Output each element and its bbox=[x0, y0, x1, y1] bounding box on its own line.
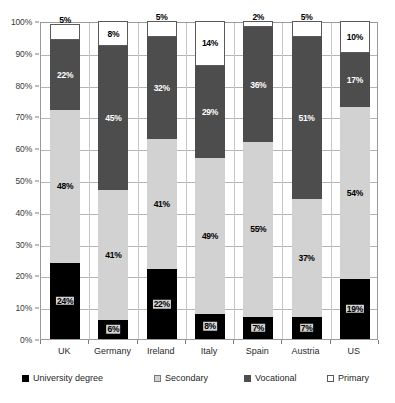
bar-segment-label: 2% bbox=[252, 13, 264, 22]
bar-segment-label: 19% bbox=[346, 305, 364, 314]
category-gridline bbox=[331, 23, 332, 339]
bar-segment-secondary[interactable]: 41% bbox=[98, 190, 128, 320]
stacked-bar-chart: 0%10%20%30%40%50%60%70%80%90%100% 24%48%… bbox=[0, 0, 395, 403]
x-tick-mark bbox=[233, 340, 234, 344]
category-gridline bbox=[186, 23, 187, 339]
bar-segment-secondary[interactable]: 41% bbox=[147, 139, 177, 269]
x-tick-label-spain: Spain bbox=[246, 346, 269, 356]
bar-column[interactable]: 24%48%22%5% bbox=[50, 21, 80, 339]
legend-label: Primary bbox=[338, 373, 369, 383]
bar-segment-primary[interactable]: 2% bbox=[243, 21, 273, 27]
bar-segment-primary[interactable]: 8% bbox=[98, 21, 128, 46]
y-tick-mark bbox=[35, 244, 39, 245]
x-tick-mark bbox=[330, 340, 331, 344]
legend-item[interactable]: University degree bbox=[22, 373, 103, 383]
university-swatch-icon bbox=[22, 375, 29, 382]
bar-segment-secondary[interactable]: 54% bbox=[340, 107, 370, 279]
bar-segment-university[interactable]: 8% bbox=[195, 314, 225, 339]
y-tick-mark bbox=[35, 117, 39, 118]
x-tick-label-uk: UK bbox=[58, 346, 71, 356]
bar-segment-vocational[interactable]: 22% bbox=[50, 40, 80, 110]
bar-segment-label: 36% bbox=[250, 80, 266, 89]
bar-segment-university[interactable]: 19% bbox=[340, 279, 370, 339]
bar-segment-label: 7% bbox=[251, 324, 265, 333]
bar-segment-label: 10% bbox=[347, 33, 363, 42]
bar-segment-university[interactable]: 7% bbox=[243, 317, 273, 339]
bar-segment-vocational[interactable]: 51% bbox=[292, 37, 322, 199]
y-tick-mark bbox=[35, 53, 39, 54]
y-tick-label: 100% bbox=[11, 17, 32, 27]
bar-segment-label: 45% bbox=[105, 114, 121, 123]
bar-segment-label: 5% bbox=[59, 16, 71, 25]
bar-segment-vocational[interactable]: 17% bbox=[340, 53, 370, 107]
bar-segment-secondary[interactable]: 37% bbox=[292, 199, 322, 317]
y-tick-label: 10% bbox=[16, 303, 32, 313]
bar-segment-label: 32% bbox=[154, 84, 170, 93]
x-axis: UKGermanyIrelandItalySpainAustriaUS bbox=[40, 344, 378, 362]
bar-segment-label: 37% bbox=[299, 254, 315, 263]
bar-column[interactable]: 19%54%17%10% bbox=[340, 21, 370, 339]
bar-segment-label: 14% bbox=[202, 39, 218, 48]
bar-segment-university[interactable]: 6% bbox=[98, 320, 128, 339]
bar-segment-label: 48% bbox=[57, 182, 73, 191]
y-tick-mark bbox=[35, 276, 39, 277]
bar-segment-secondary[interactable]: 55% bbox=[243, 142, 273, 317]
primary-swatch-icon bbox=[327, 375, 334, 382]
bar-segment-primary[interactable]: 5% bbox=[50, 24, 80, 40]
bar-segment-label: 22% bbox=[57, 71, 73, 80]
x-tick-mark bbox=[185, 340, 186, 344]
bar-column[interactable]: 8%49%29%14% bbox=[195, 21, 225, 339]
bar-segment-primary[interactable]: 10% bbox=[340, 21, 370, 53]
bar-segment-university[interactable]: 24% bbox=[50, 263, 80, 339]
bar-segment-vocational[interactable]: 29% bbox=[195, 66, 225, 158]
y-tick-mark bbox=[35, 340, 39, 341]
bar-segment-label: 5% bbox=[156, 13, 168, 22]
legend-item[interactable]: Secondary bbox=[154, 373, 208, 383]
bar-segment-secondary[interactable]: 49% bbox=[195, 158, 225, 314]
bar-column[interactable]: 22%41%32%5% bbox=[147, 21, 177, 339]
category-gridline bbox=[234, 23, 235, 339]
x-tick-label-germany: Germany bbox=[94, 346, 131, 356]
x-tick-label-us: US bbox=[348, 346, 361, 356]
bar-column[interactable]: 7%55%36%2% bbox=[243, 21, 273, 339]
x-tick-mark bbox=[137, 340, 138, 344]
bar-segment-university[interactable]: 7% bbox=[292, 317, 322, 339]
bar-segment-primary[interactable]: 14% bbox=[195, 21, 225, 66]
bar-segment-label: 49% bbox=[202, 231, 218, 240]
y-tick-label: 80% bbox=[16, 81, 32, 91]
bar-segment-label: 8% bbox=[203, 322, 217, 331]
bar-segment-vocational[interactable]: 45% bbox=[98, 46, 128, 189]
bar-segment-university[interactable]: 22% bbox=[147, 269, 177, 339]
x-tick-mark bbox=[281, 340, 282, 344]
legend-label: University degree bbox=[33, 373, 103, 383]
bar-column[interactable]: 6%41%45%8% bbox=[98, 21, 128, 339]
y-tick-label: 60% bbox=[16, 144, 32, 154]
bar-segment-label: 55% bbox=[250, 225, 266, 234]
bar-segment-vocational[interactable]: 36% bbox=[243, 27, 273, 141]
y-tick-label: 40% bbox=[16, 208, 32, 218]
bar-segment-secondary[interactable]: 48% bbox=[50, 110, 80, 263]
bar-segment-label: 6% bbox=[107, 325, 121, 334]
x-tick-label-ireland: Ireland bbox=[147, 346, 175, 356]
y-tick-label: 0% bbox=[20, 335, 32, 345]
legend-item[interactable]: Vocational bbox=[244, 373, 297, 383]
y-tick-mark bbox=[35, 22, 39, 23]
category-gridline bbox=[282, 23, 283, 339]
bar-segment-vocational[interactable]: 32% bbox=[147, 37, 177, 139]
bar-segment-primary[interactable]: 5% bbox=[292, 21, 322, 37]
bar-segment-label: 41% bbox=[154, 200, 170, 209]
bar-segment-label: 41% bbox=[105, 250, 121, 259]
bar-column[interactable]: 7%37%51%5% bbox=[292, 21, 322, 339]
bar-segment-label: 7% bbox=[300, 324, 314, 333]
bar-segment-label: 54% bbox=[347, 188, 363, 197]
legend-item[interactable]: Primary bbox=[327, 373, 369, 383]
bar-segment-primary[interactable]: 5% bbox=[147, 21, 177, 37]
bar-segment-label: 22% bbox=[153, 300, 171, 309]
bar-segment-label: 8% bbox=[108, 29, 120, 38]
legend-label: Secondary bbox=[165, 373, 208, 383]
bar-segment-label: 24% bbox=[56, 297, 74, 306]
x-tick-label-italy: Italy bbox=[201, 346, 218, 356]
bar-segment-label: 51% bbox=[299, 114, 315, 123]
plot-area: 24%48%22%5%6%41%45%8%22%41%32%5%8%49%29%… bbox=[40, 22, 378, 340]
y-tick-label: 70% bbox=[16, 112, 32, 122]
